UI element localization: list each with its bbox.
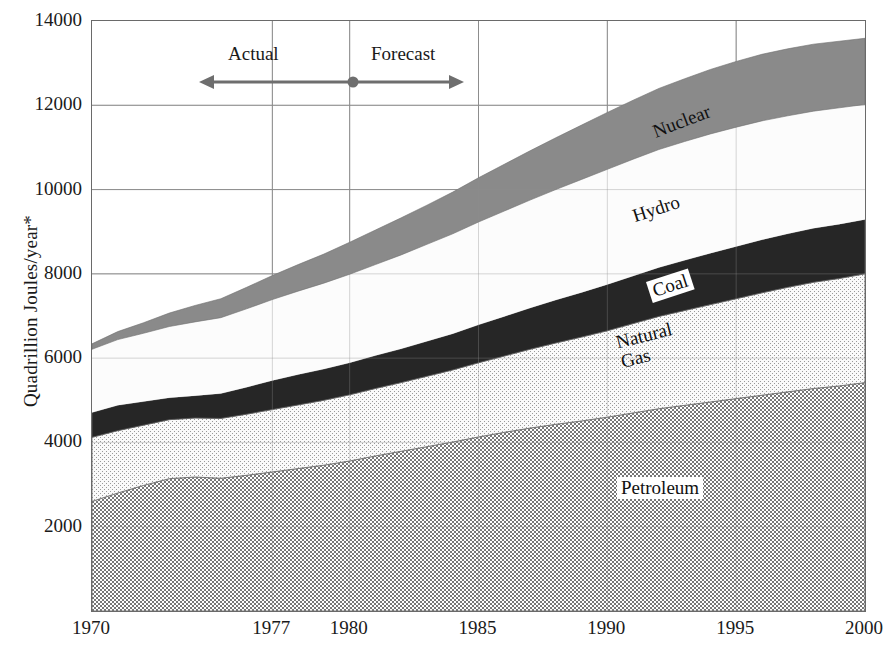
plot-area (91, 20, 866, 612)
x-tick-label: 1977 (236, 618, 306, 637)
x-tick-label: 1985 (443, 618, 513, 637)
y-tick-label: 6000 (12, 347, 82, 366)
y-tick-label: 14000 (12, 10, 82, 29)
y-axis-tick-labels: 2000400060008000100001200014000 (12, 0, 82, 652)
x-tick-label: 1995 (700, 618, 770, 637)
annotation-actual-label: Actual (228, 44, 279, 63)
y-tick-label: 12000 (12, 94, 82, 113)
stacked-area-svg (92, 21, 865, 611)
y-tick-label: 2000 (12, 516, 82, 535)
band-label-petroleum: Petroleum (617, 477, 703, 499)
x-tick-label: 1990 (571, 618, 641, 637)
y-tick-label: 8000 (12, 263, 82, 282)
y-tick-label: 4000 (12, 431, 82, 450)
x-tick-label: 1970 (56, 618, 126, 637)
y-tick-label: 10000 (12, 179, 82, 198)
annotation-forecast-label: Forecast (371, 44, 435, 63)
x-tick-label: 1980 (314, 618, 384, 637)
x-tick-label: 2000 (829, 618, 887, 637)
